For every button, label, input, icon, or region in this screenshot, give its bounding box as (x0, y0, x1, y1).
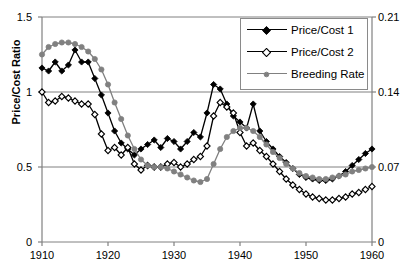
legend-swatch-open-diamond-icon (247, 46, 287, 58)
legend-item-breeding-rate: Breeding Rate (241, 63, 367, 85)
legend-swatch-filled-circle-icon (247, 68, 287, 80)
chart-container: Price/Cost Ratio Colts/ Total Draft Anim… (0, 0, 419, 268)
legend-item-price-cost-1: Price/Cost 1 (241, 19, 367, 41)
legend-label-price-cost-2: Price/Cost 2 (291, 46, 354, 58)
legend-label-price-cost-1: Price/Cost 1 (291, 24, 354, 36)
series-price-cost-2 (39, 89, 375, 203)
legend-swatch-filled-diamond-icon (247, 24, 287, 36)
legend-label-breeding-rate: Breeding Rate (291, 68, 365, 80)
chart-legend: Price/Cost 1 Price/Cost 2 Breeding Rate (240, 18, 368, 90)
legend-item-price-cost-2: Price/Cost 2 (241, 41, 367, 63)
